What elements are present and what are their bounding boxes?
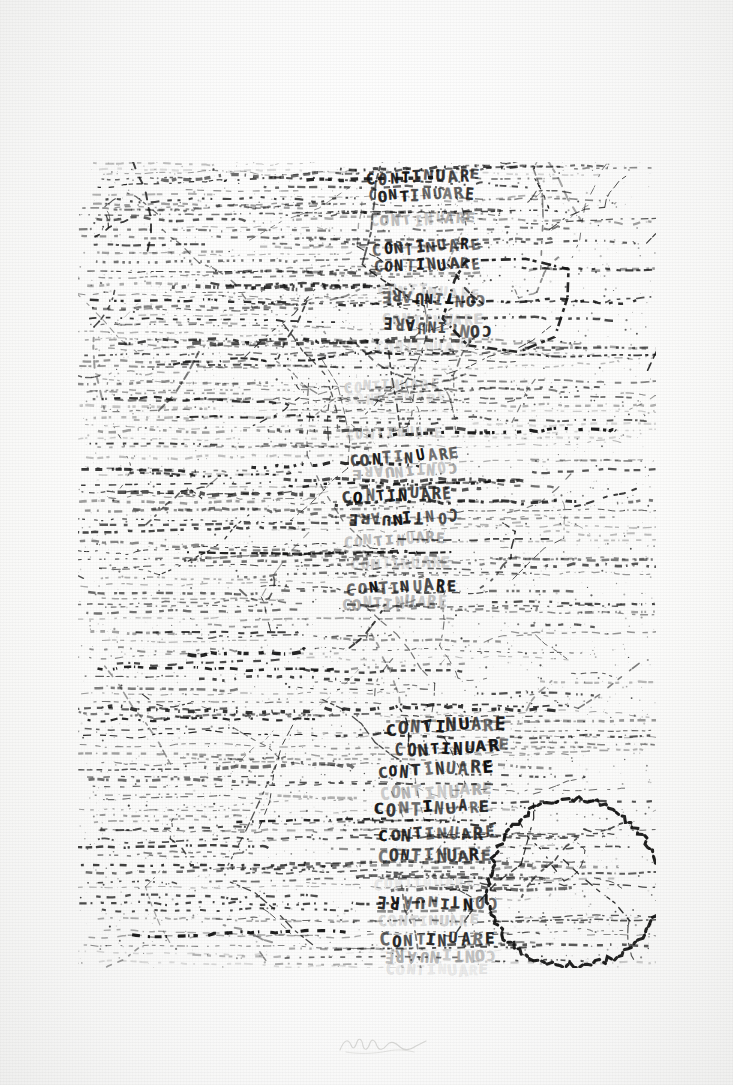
stamped-char: N: [400, 827, 412, 845]
stamped-char: R: [468, 963, 478, 977]
stamped-char: E: [485, 931, 496, 947]
stamped-char: R: [455, 875, 464, 890]
stamped-word-row: CONTINUARE: [394, 738, 512, 758]
stamped-char: R: [459, 913, 469, 928]
stamped-word-row: CONTINUARE: [378, 760, 494, 780]
stamped-char: R: [468, 847, 480, 864]
stamped-char: C: [373, 877, 384, 892]
stamped-char: I: [424, 825, 437, 843]
stamped-char: I: [422, 798, 435, 815]
stamped-char: T: [411, 801, 422, 819]
stamped-char: O: [474, 893, 485, 911]
stamped-char: U: [433, 875, 444, 890]
stamped-char: A: [445, 874, 455, 889]
stamped-char: E: [466, 875, 475, 888]
stamped-word-row: CONTINUARE: [378, 847, 492, 865]
stamped-char: A: [475, 739, 488, 754]
stamped-char: N: [423, 877, 433, 890]
stamped-char: E: [376, 893, 387, 911]
stamped-char: O: [389, 847, 400, 865]
stamped-char: O: [389, 764, 399, 779]
stamped-char: E: [485, 824, 496, 839]
stamped-char: N: [399, 763, 410, 781]
stamped-char: R: [388, 893, 400, 912]
stamped-word-row: CONTINUARE: [374, 875, 475, 891]
stamped-char: I: [413, 876, 423, 890]
stamped-char: A: [458, 797, 468, 813]
stamped-word-row: CONTINUARE: [378, 913, 479, 929]
stamped-char: E: [469, 912, 480, 926]
stamped-char: I: [438, 896, 450, 911]
stamped-char: A: [460, 826, 473, 842]
stamped-char: T: [412, 825, 424, 842]
stamped-char: U: [449, 824, 460, 842]
stamped-char: O: [384, 876, 393, 890]
stamped-char: A: [402, 893, 412, 911]
stamped-char: U: [448, 931, 459, 947]
stamped-char: T: [411, 762, 423, 778]
stamped-char: N: [461, 895, 472, 911]
stamped-char: E: [479, 799, 491, 815]
stamped-char: O: [387, 912, 399, 928]
stamped-char: I: [420, 914, 429, 928]
stamped-word-row: CONTINUARE: [376, 893, 498, 911]
stamped-char: U: [446, 962, 458, 978]
stamped-char: I: [425, 931, 438, 949]
stamped-char: N: [446, 715, 459, 734]
stamped-char: N: [398, 800, 411, 816]
stamped-char: O: [395, 963, 406, 976]
stamped-char: E: [482, 781, 493, 797]
stamped-char: U: [445, 801, 458, 817]
stamped-char: A: [458, 760, 469, 778]
stamped-word-row: CONTINUARE: [378, 825, 497, 843]
stamped-char: T: [410, 847, 423, 864]
stamped-char: N: [453, 740, 464, 758]
stamped-char: I: [440, 946, 452, 961]
lower-block: CONTINUARECONTINUARECONTINUARECONTINUARE…: [78, 162, 656, 968]
stamped-char: I: [423, 846, 435, 863]
stamped-char: T: [449, 893, 460, 910]
pencil-signature: [336, 1031, 432, 1057]
stamped-char: R: [470, 758, 482, 776]
stamped-char: N: [428, 914, 439, 927]
stamped-char: E: [494, 715, 506, 734]
stamped-char: R: [483, 717, 495, 734]
artwork-plate: CONTINUARECONTINUARECONTINUARECONTINUARE…: [78, 162, 656, 968]
stamped-char: T: [430, 741, 441, 756]
stamped-char: E: [482, 758, 495, 776]
stamped-char: U: [445, 760, 457, 777]
stamped-word-row: CONTINUARE: [374, 798, 492, 818]
stamped-char: I: [426, 962, 437, 976]
stamped-char: C: [485, 948, 496, 962]
stamped-char: A: [462, 931, 472, 948]
stamped-char: O: [386, 802, 398, 820]
stamped-char: N: [433, 799, 444, 817]
stamped-char: U: [458, 715, 472, 732]
stamped-char: A: [471, 715, 482, 733]
stamped-word-row: CONTINUARE: [386, 715, 508, 738]
stamped-char: C: [394, 741, 404, 758]
stamped-char: O: [398, 719, 411, 737]
stamped-char: C: [487, 895, 497, 911]
stamped-char: E: [498, 737, 510, 752]
stamped-char: R: [473, 825, 484, 843]
stamped-char: A: [458, 962, 470, 978]
stamped-char: I: [441, 741, 453, 758]
stamped-char: C: [378, 829, 389, 844]
stamped-char: N: [437, 826, 449, 841]
stamped-char: N: [434, 760, 446, 778]
stamped-char: C: [379, 930, 392, 949]
stamped-char: T: [416, 963, 426, 977]
stamped-char: N: [426, 893, 438, 908]
stamped-char: N: [399, 913, 410, 927]
stamped-char: C: [373, 802, 385, 817]
stamped-char: T: [420, 717, 435, 735]
stamped-word-row: CONTINUARE: [386, 962, 488, 976]
stamped-char: A: [449, 912, 459, 928]
stamped-char: U: [414, 894, 425, 910]
stamped-char: E: [481, 848, 492, 863]
stamped-char: T: [409, 914, 419, 929]
stamped-char: E: [478, 962, 489, 976]
